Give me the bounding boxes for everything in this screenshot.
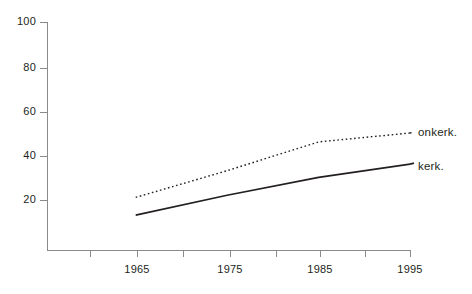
y-tick-label-60: 60 <box>6 105 36 117</box>
x-tick-label-1995: 1995 <box>390 263 430 275</box>
series-line-kerk <box>136 164 410 215</box>
x-axis-ticks <box>90 250 410 257</box>
y-axis-ticks <box>40 22 47 200</box>
line-chart: 100 80 60 40 20 1965 1975 1985 1995 onke… <box>0 0 472 294</box>
y-tick-label-40: 40 <box>6 149 36 161</box>
x-tick-label-1985: 1985 <box>300 263 340 275</box>
x-tick-label-1965: 1965 <box>117 263 157 275</box>
series-label-kerk: kerk. <box>418 160 444 172</box>
series-label-onkerk: onkerk. <box>418 126 457 138</box>
series-line-onkerk <box>136 133 410 197</box>
plot-area <box>0 0 472 294</box>
y-tick-label-100: 100 <box>6 15 36 27</box>
y-tick-label-20: 20 <box>6 193 36 205</box>
x-tick-label-1975: 1975 <box>210 263 250 275</box>
y-tick-label-80: 80 <box>6 61 36 73</box>
series-leader-kerk <box>410 163 414 164</box>
series-leader-onkerk <box>410 132 414 133</box>
